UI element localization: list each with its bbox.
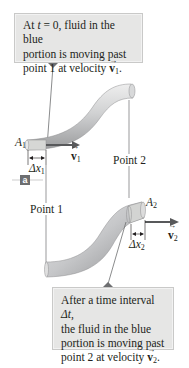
v1-label: v1 — [71, 150, 81, 164]
point1-label: Point 1 — [29, 203, 64, 215]
top-callout: At t = 0, fluid in the blue portion is m… — [14, 13, 143, 63]
top-callout-line1: At t = 0, fluid in the blue — [23, 18, 136, 47]
dx1-label: Δx1 — [29, 162, 45, 176]
top-callout-line2: portion is moving past — [23, 47, 136, 61]
vector-v2: v — [147, 351, 153, 363]
panel-badge: a — [20, 175, 30, 185]
upper-pipe — [25, 84, 135, 150]
area2-label: A2 — [146, 196, 157, 210]
vector-v1: v — [109, 62, 115, 74]
v2-label: v2 — [168, 229, 178, 243]
dx2-dimension — [131, 220, 145, 240]
point2-label: Point 2 — [112, 154, 147, 166]
top-callout-line3: point 1 at velocity v1. — [23, 61, 136, 79]
dx2-label: Δx2 — [129, 238, 145, 252]
bottom-callout-line2: the fluid in the blue — [61, 322, 167, 336]
bottom-callout-line1: After a time interval Δt, — [61, 293, 167, 322]
area1-label: A1 — [15, 136, 26, 150]
bottom-callout-line4: point 2 at velocity v2. — [61, 350, 167, 368]
bottom-callout: After a time interval Δt, the fluid in t… — [52, 287, 174, 350]
